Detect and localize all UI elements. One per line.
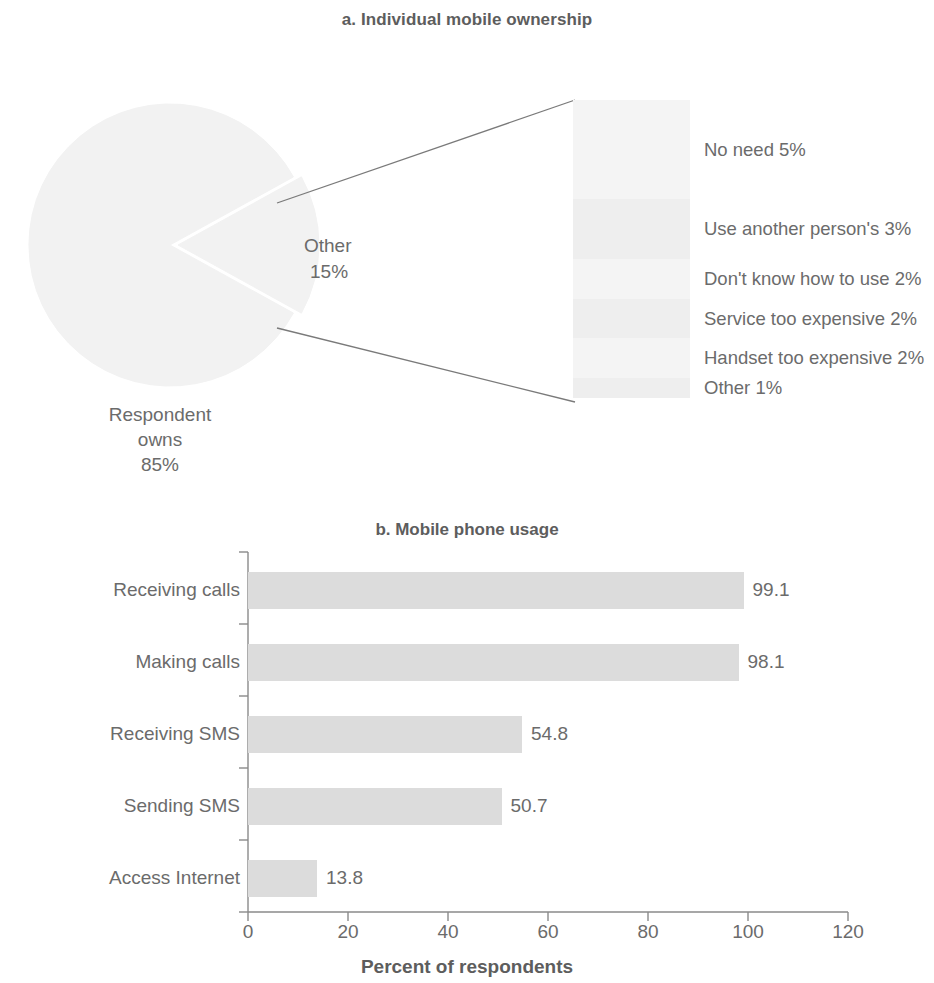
x-axis-tick-label: 120 — [832, 921, 864, 943]
breakdown-segment — [573, 259, 690, 299]
x-axis-tick-label: 40 — [437, 921, 458, 943]
panel-b-mobile-phone-usage: b. Mobile phone usage Receiving calls99.… — [0, 500, 934, 983]
bar — [248, 788, 502, 825]
leader-line-bottom — [277, 328, 575, 402]
panel-a-title: a. Individual mobile ownership — [0, 10, 934, 30]
x-axis-tick-label: 80 — [637, 921, 658, 943]
bar-category-label: Access Internet — [109, 867, 240, 889]
bar — [248, 644, 739, 681]
bar-value-label: 50.7 — [511, 795, 548, 817]
leader-line-top — [277, 100, 575, 203]
breakdown-label: Service too expensive 2% — [704, 308, 917, 330]
bar-value-label: 54.8 — [531, 723, 568, 745]
x-axis-title: Percent of respondents — [0, 956, 934, 978]
breakdown-label: Don't know how to use 2% — [704, 268, 921, 290]
figure-root: a. Individual mobile ownership Responden… — [0, 0, 934, 983]
x-axis-tick-label: 100 — [732, 921, 764, 943]
bar-value-label: 13.8 — [326, 867, 363, 889]
bar-value-label: 99.1 — [753, 579, 790, 601]
x-axis-tick-label: 0 — [243, 921, 254, 943]
x-axis-tick-label: 60 — [537, 921, 558, 943]
breakdown-stacked-bar — [573, 100, 690, 398]
breakdown-label: Use another person's 3% — [704, 218, 911, 240]
breakdown-segment — [573, 299, 690, 339]
x-axis-tick-label: 20 — [337, 921, 358, 943]
bar — [248, 716, 522, 753]
breakdown-segment — [573, 100, 690, 199]
bar — [248, 860, 317, 897]
bar-chart: Receiving calls99.1Making calls98.1Recei… — [0, 500, 934, 983]
breakdown-label: No need 5% — [704, 139, 806, 161]
bar-category-label: Receiving calls — [113, 579, 240, 601]
breakdown-segment — [573, 378, 690, 398]
bar-value-label: 98.1 — [748, 651, 785, 673]
breakdown-label-list: No need 5%Use another person's 3%Don't k… — [704, 100, 934, 398]
bar — [248, 572, 744, 609]
bar-category-label: Receiving SMS — [110, 723, 240, 745]
breakdown-segment — [573, 199, 690, 259]
breakdown-label: Handset too expensive 2% — [704, 347, 924, 369]
bar-category-label: Sending SMS — [124, 795, 240, 817]
bar-category-label: Making calls — [135, 651, 240, 673]
breakdown-label: Other 1% — [704, 377, 782, 399]
panel-a-individual-mobile-ownership: a. Individual mobile ownership Responden… — [0, 0, 934, 500]
breakdown-segment — [573, 338, 690, 378]
